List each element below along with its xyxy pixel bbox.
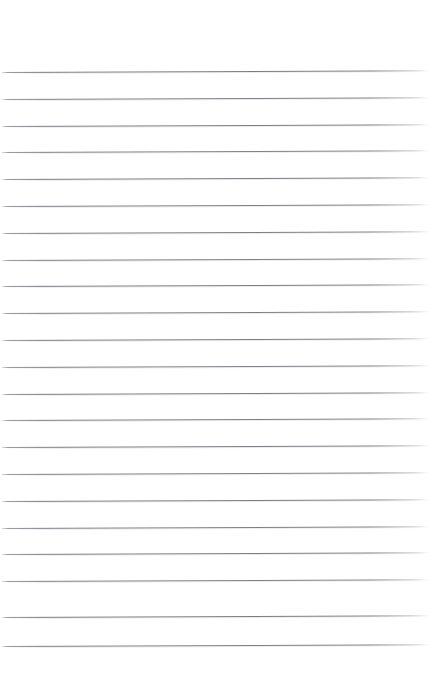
writing-area[interactable] (0, 0, 438, 688)
scanned-page (0, 0, 438, 688)
